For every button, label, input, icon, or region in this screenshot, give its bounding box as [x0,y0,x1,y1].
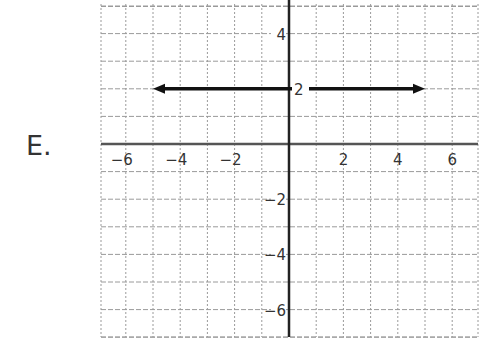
arrowhead-right-icon [413,84,425,94]
coordinate-plane: −6−4−224642−2−4−6 2 [0,0,496,358]
y-tick-label: 4 [276,26,286,44]
x-tick-label: 2 [339,151,349,169]
y-tick-label: −2 [264,191,286,209]
x-tick-label: −2 [220,151,242,169]
y-tick-label: 2 [294,81,304,99]
y-tick-label: −6 [264,302,286,320]
x-tick-label: −4 [165,151,187,169]
x-tick-label: −6 [111,151,133,169]
axes [101,0,478,337]
x-tick-label: 6 [447,151,457,169]
y-tick-label: −4 [264,246,286,264]
arrowhead-left-icon [153,84,165,94]
x-tick-label: 4 [393,151,403,169]
